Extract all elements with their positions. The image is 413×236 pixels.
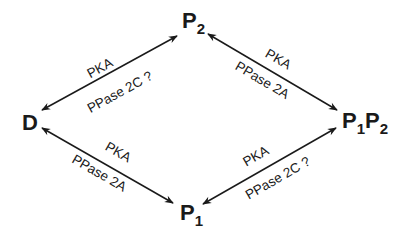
svg-text:P1: P1 [180, 200, 203, 229]
double-arrow-icon [203, 128, 336, 204]
node-P1P2-label2: P [365, 108, 380, 133]
edge-D-P1: PKA PPase 2A [42, 128, 173, 203]
node-D: D [22, 110, 38, 135]
svg-text:P1P2: P1P2 [342, 108, 388, 137]
edge-P1-P1P2: PKA PPase 2C ? [203, 128, 336, 204]
node-P1P2-sub1: 1 [357, 120, 365, 137]
svg-text:P2: P2 [182, 8, 205, 37]
edge-D-P1-top-label: PKA [103, 139, 134, 165]
node-D-label: D [22, 110, 38, 135]
node-P1P2-sub2: 2 [380, 120, 388, 137]
edge-P2-P1P2: PKA PPase 2A [208, 34, 337, 110]
phosphorylation-state-diagram: D P2 P1P2 P1 PKA PPase 2C ? PKA PPase 2A… [0, 0, 413, 236]
node-P1-sub: 1 [195, 212, 203, 229]
node-P2-sub: 2 [197, 20, 205, 37]
node-P2-label: P [182, 8, 197, 33]
edge-P1-P1P2-top-label: PKA [240, 143, 271, 169]
node-P1P2-label1: P [342, 108, 357, 133]
node-P1: P1 [180, 200, 203, 229]
edge-D-P2-top-label: PKA [84, 55, 115, 81]
node-P1-label: P [180, 200, 195, 225]
double-arrow-icon [42, 128, 173, 203]
node-P2: P2 [182, 8, 205, 37]
double-arrow-icon [208, 34, 337, 110]
edge-D-P2: PKA PPase 2C ? [42, 36, 177, 116]
node-P1P2: P1P2 [342, 108, 388, 137]
